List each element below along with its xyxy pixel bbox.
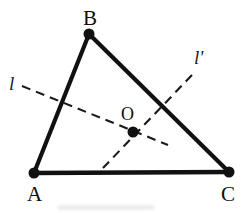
vertex-label-a: A (27, 184, 42, 205)
line-label-l: l (9, 74, 14, 93)
line-label-l-prime: l' (194, 48, 203, 67)
geometry-figure: B A C O l l' (0, 0, 245, 213)
triangle-edge-ab (34, 34, 89, 173)
vertex-dot-c (224, 167, 235, 178)
triangle-edge-ac (34, 172, 229, 173)
triangle-edge-bc (89, 34, 229, 172)
vertex-label-c: C (221, 184, 235, 205)
vertex-label-b: B (83, 8, 97, 29)
point-dot-o (128, 127, 139, 138)
scan-artifact (58, 205, 154, 210)
vertex-dot-b (84, 29, 95, 40)
point-label-o: O (121, 105, 134, 123)
dashed-line-l (22, 86, 168, 145)
vertex-dot-a (29, 168, 40, 179)
